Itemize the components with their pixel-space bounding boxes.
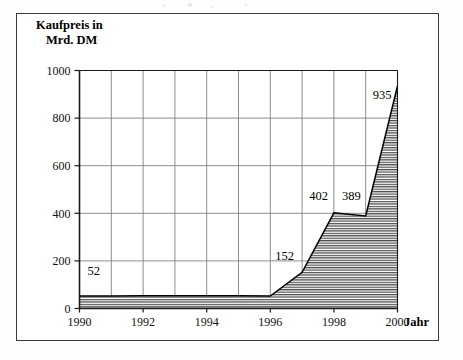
- data-label: 52: [88, 264, 101, 278]
- y-tick-label: 800: [53, 111, 71, 125]
- area-chart-plot: 0200400600800100019901992199419961998200…: [0, 0, 463, 360]
- data-label: 402: [309, 189, 328, 203]
- data-label: 935: [373, 88, 392, 102]
- x-tick-label: 1998: [322, 315, 346, 329]
- chart-page: Kaufpreis in Mrd. DM Jahr 02004006008001…: [0, 0, 463, 360]
- y-tick-label: 600: [53, 159, 71, 173]
- x-tick-label: 1992: [131, 315, 155, 329]
- y-tick-label: 1000: [47, 64, 71, 78]
- y-tick-label: 200: [53, 254, 71, 268]
- x-tick-label: 1990: [68, 315, 92, 329]
- x-tick-label: 2000: [386, 315, 410, 329]
- data-label: 389: [342, 189, 361, 203]
- data-label: 152: [275, 249, 294, 263]
- x-tick-label: 1996: [258, 315, 282, 329]
- y-tick-label: 400: [53, 207, 71, 221]
- x-tick-label: 1994: [195, 315, 219, 329]
